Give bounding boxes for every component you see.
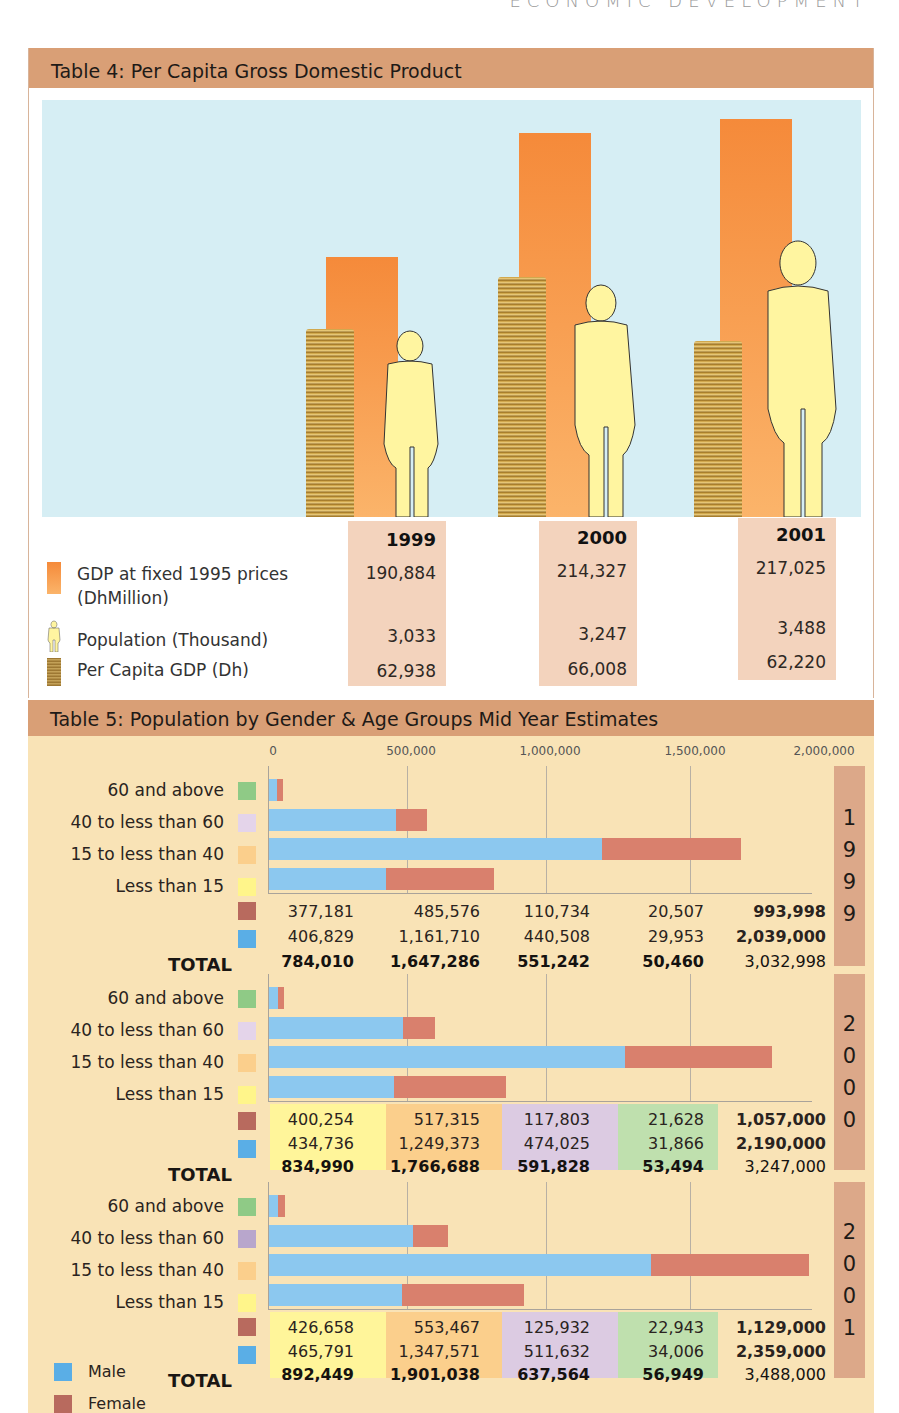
age-label: 60 and above (107, 1196, 224, 1216)
total-label: TOTAL (168, 1370, 232, 1391)
female-row: 377,181 485,576 110,734 20,507 993,998 (268, 900, 834, 924)
person-icon-2001 (758, 239, 838, 517)
female-swatch (238, 902, 256, 920)
age-label: 60 and above (107, 780, 224, 800)
bar-40-60 (269, 1225, 448, 1247)
age-label: 40 to less than 60 (71, 1020, 224, 1040)
table4-panel: Table 4: Per Capita Gross Domestic Produ… (28, 48, 874, 698)
x-tick: 1,000,000 (519, 744, 580, 758)
male-swatch-icon (54, 1363, 72, 1381)
year-digit: 0 (843, 1104, 856, 1136)
male-row: 406,829 1,161,710 440,508 29,953 2,039,0… (268, 925, 834, 949)
age-swatch-under15 (238, 1086, 256, 1104)
x-axis-ticks: 0 500,000 1,000,000 1,500,000 2,000,000 (28, 744, 874, 760)
male-swatch (238, 1346, 256, 1364)
male-swatch (238, 1140, 256, 1158)
year-column-1999: 1999 190,884 3,033 62,938 (348, 521, 446, 686)
coin-stack-2000 (498, 277, 546, 517)
age-label: 60 and above (107, 988, 224, 1008)
age-swatch-60plus (238, 990, 256, 1008)
male-row: 434,736 1,249,373 474,025 31,866 2,190,0… (268, 1132, 834, 1156)
table4-data: 1999 190,884 3,033 62,938 2000 214,327 3… (29, 518, 873, 693)
per-capita-value: 62,220 (767, 652, 826, 672)
year-digit: 0 (843, 1248, 856, 1280)
table4-title: Table 4: Per Capita Gross Domestic Produ… (29, 48, 873, 88)
year-header: 1999 (386, 529, 436, 550)
bar-40-60 (269, 809, 427, 831)
legend-female-label: Female (88, 1394, 146, 1413)
x-tick: 0 (269, 744, 277, 758)
legend-male: Male (54, 1362, 126, 1381)
bar-40-60 (269, 1017, 435, 1039)
year-header: 2001 (776, 524, 826, 545)
bar-plot-1999 (268, 766, 812, 894)
running-head: ECONOMIC DEVELOPMENT (509, 0, 869, 11)
female-row: 400,254 517,315 117,803 21,628 1,057,000 (268, 1108, 834, 1132)
population-value: 3,033 (387, 626, 436, 646)
age-swatch-60plus (238, 1198, 256, 1216)
bar-under15 (269, 1284, 524, 1306)
age-swatch-under15 (238, 878, 256, 896)
female-swatch-icon (54, 1395, 72, 1413)
bar-60plus (269, 1195, 285, 1217)
male-row: 465,791 1,347,571 511,632 34,006 2,359,0… (268, 1340, 834, 1364)
per-capita-value: 62,938 (377, 661, 436, 681)
bar-15-40 (269, 838, 741, 860)
age-label: 15 to less than 40 (71, 844, 224, 864)
age-swatch-15-40 (238, 1054, 256, 1072)
year-digit: 0 (843, 1280, 856, 1312)
legend-per-capita-label: Per Capita GDP (Dh) (77, 658, 249, 682)
age-label: 15 to less than 40 (71, 1052, 224, 1072)
bar-60plus (269, 779, 283, 801)
x-tick: 2,000,000 (793, 744, 854, 758)
year-digit: 1 (843, 1312, 856, 1344)
gdp-value: 190,884 (366, 563, 436, 583)
year-digit: 0 (843, 1040, 856, 1072)
female-swatch (238, 1112, 256, 1130)
year-band-1999: 1 9 9 9 (834, 766, 865, 966)
x-tick: 1,500,000 (664, 744, 725, 758)
legend-gdp-unit: (DhMillion) (77, 586, 288, 610)
age-swatch-15-40 (238, 1262, 256, 1280)
age-swatch-40-60 (238, 814, 256, 832)
legend-per-capita: Per Capita GDP (Dh) (47, 658, 249, 686)
year-digit: 2 (843, 1216, 856, 1248)
year-digit: 9 (843, 898, 856, 930)
year-band-2001: 2 0 0 1 (834, 1182, 865, 1378)
age-label: 40 to less than 60 (71, 1228, 224, 1248)
coin-stack-icon (47, 658, 61, 686)
gdp-pictogram-chart (42, 100, 861, 517)
orange-bar-icon (47, 562, 61, 594)
age-label: Less than 15 (116, 1292, 224, 1312)
legend-population-label: Population (Thousand) (77, 620, 268, 652)
bar-plot-2000 (268, 974, 812, 1102)
legend-male-label: Male (88, 1362, 126, 1381)
table5-title: Table 5: Population by Gender & Age Grou… (28, 700, 874, 736)
age-label: 40 to less than 60 (71, 812, 224, 832)
gdp-value: 217,025 (756, 558, 826, 578)
bar-15-40 (269, 1254, 809, 1276)
x-tick: 500,000 (386, 744, 436, 758)
age-swatch-40-60 (238, 1022, 256, 1040)
age-label: Less than 15 (116, 876, 224, 896)
legend-gdp: GDP at fixed 1995 prices(DhMillion) (47, 562, 288, 610)
age-label: 15 to less than 40 (71, 1260, 224, 1280)
year-column-2001: 2001 217,025 3,488 62,220 (738, 518, 836, 680)
section-2000: 2 0 0 0 60 and above 40 to less than 60 … (28, 974, 874, 1182)
coin-stack-1999 (306, 329, 354, 517)
bar-60plus (269, 987, 284, 1009)
year-digit: 0 (843, 1072, 856, 1104)
year-digit: 9 (843, 866, 856, 898)
year-header: 2000 (577, 527, 627, 548)
total-label: TOTAL (168, 954, 232, 975)
person-icon (47, 620, 61, 652)
bar-plot-2001 (268, 1182, 812, 1310)
population-value: 3,488 (777, 618, 826, 638)
person-icon-2000 (565, 283, 637, 517)
age-swatch-under15 (238, 1294, 256, 1312)
age-swatch-40-60 (238, 1230, 256, 1248)
bar-under15 (269, 1076, 506, 1098)
age-swatch-60plus (238, 782, 256, 800)
year-band-2000: 2 0 0 0 (834, 974, 865, 1170)
table5-panel: Table 5: Population by Gender & Age Grou… (28, 700, 874, 1413)
